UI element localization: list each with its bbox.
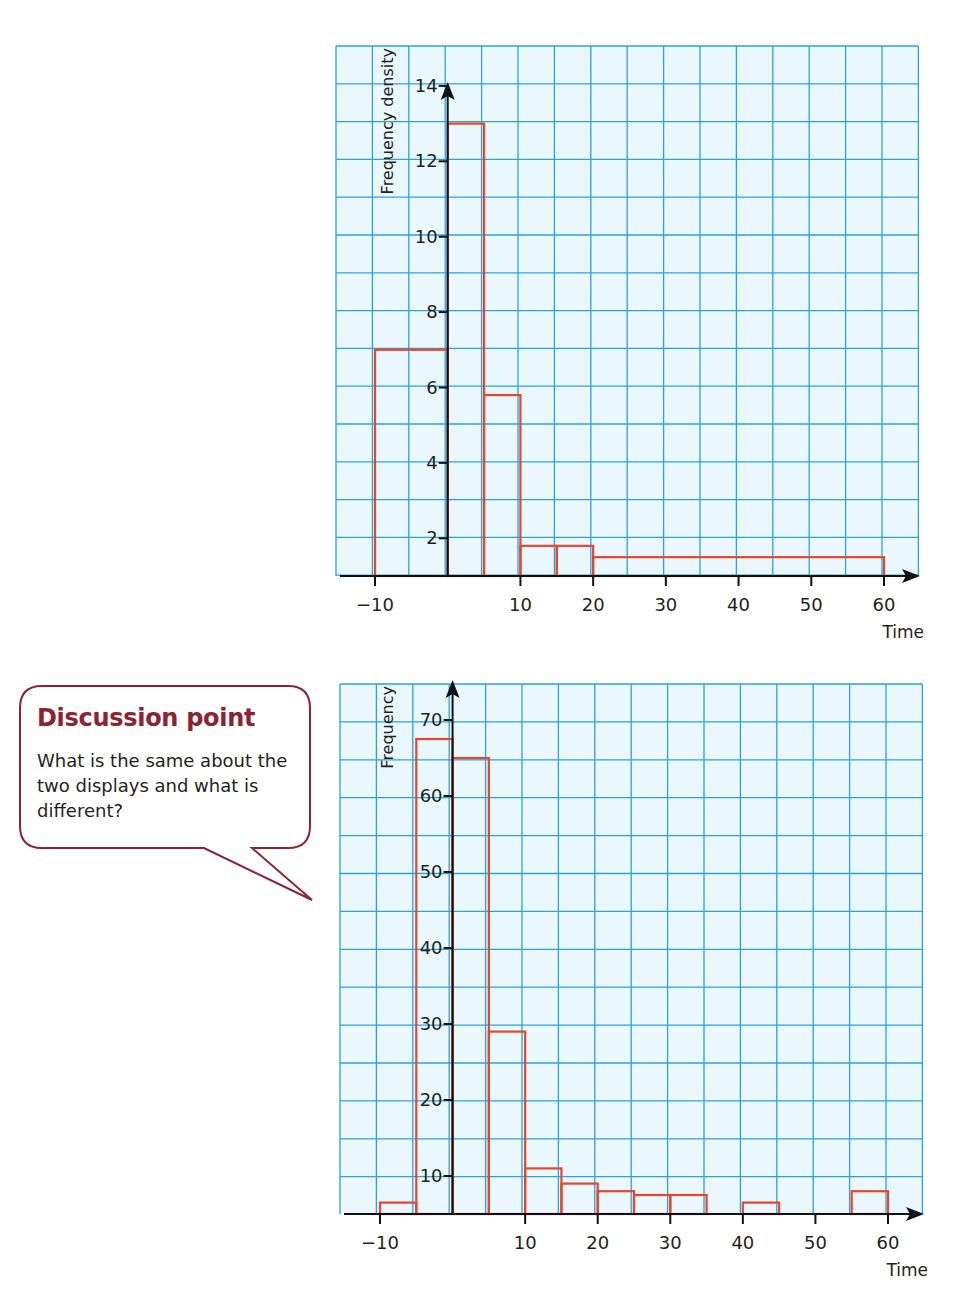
y-tick-label: 40: [420, 937, 443, 958]
y-tick-label: 30: [420, 1013, 443, 1034]
y-tick-label: 10: [420, 1165, 443, 1186]
y-tick-label: 60: [420, 785, 443, 806]
x-tick-label: 30: [659, 1232, 682, 1253]
discussion-point-text: What is the same about the two displays …: [37, 748, 302, 823]
x-tick-label: 10: [514, 1232, 537, 1253]
x-tick-label: −10: [361, 1232, 399, 1253]
y-tick-label: 20: [420, 1089, 443, 1110]
x-axis-label: Time: [885, 1260, 928, 1280]
x-tick-label: 20: [586, 1232, 609, 1253]
x-tick-label: 40: [731, 1232, 754, 1253]
discussion-point-title: Discussion point: [37, 704, 255, 732]
x-tick-label: 60: [877, 1232, 900, 1253]
x-tick-label: 50: [804, 1232, 827, 1253]
y-axis-label: Frequency: [378, 686, 397, 769]
y-tick-label: 50: [420, 861, 443, 882]
frequency-chart: −1010203040506010203040506070TimeFrequen…: [0, 0, 960, 1308]
y-tick-label: 70: [420, 709, 443, 730]
